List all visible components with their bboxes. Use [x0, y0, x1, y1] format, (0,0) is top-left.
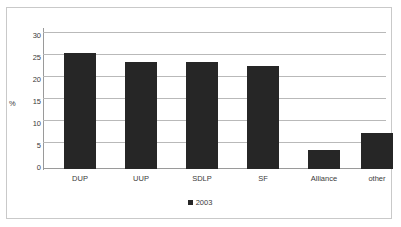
- bar-slot-sdlp: [175, 28, 229, 169]
- legend-entry-2003[interactable]: 2003: [188, 198, 213, 207]
- legend-swatch-icon: [188, 200, 193, 205]
- chart-legend: 2003: [7, 198, 393, 207]
- value-axis-tick-20: 20: [19, 76, 41, 84]
- category-label-sf: SF: [236, 174, 290, 184]
- category-label-sdlp: SDLP: [175, 174, 229, 184]
- bar-slot-alliance: [297, 28, 351, 169]
- value-axis-tick-30: 30: [19, 32, 41, 40]
- bar-slot-sf: [236, 28, 290, 169]
- category-label-dup: DUP: [53, 174, 107, 184]
- plot-area: [43, 28, 386, 169]
- category-label-other: other: [350, 174, 401, 184]
- value-axis-tick-labels: 30 25 20 15 10 5 0: [15, 28, 41, 169]
- value-axis-tick-25: 25: [19, 54, 41, 62]
- bar-slot-other: [350, 28, 401, 169]
- bar-sdlp[interactable]: [186, 62, 218, 169]
- category-label-alliance: Alliance: [297, 174, 351, 184]
- category-label-uup: UUP: [114, 174, 168, 184]
- value-axis-unit-label: %: [9, 100, 16, 108]
- bar-slot-dup: [53, 28, 107, 169]
- bar-dup[interactable]: [64, 53, 96, 170]
- value-axis-tick-15: 15: [19, 98, 41, 106]
- category-axis-labels: DUP UUP SDLP SF Alliance other: [43, 174, 386, 188]
- value-axis-tick-10: 10: [19, 120, 41, 128]
- legend-label-2003: 2003: [196, 198, 213, 207]
- bar-sf[interactable]: [247, 66, 279, 169]
- value-axis-tick-5: 5: [19, 142, 41, 150]
- bar-alliance[interactable]: [308, 150, 340, 169]
- bar-uup[interactable]: [125, 62, 157, 169]
- bar-slot-uup: [114, 28, 168, 169]
- bar-other[interactable]: [361, 133, 393, 169]
- chart-figure: 30 25 20 15 10 5 0 %: [6, 7, 392, 219]
- value-axis-tick-0: 0: [19, 164, 41, 172]
